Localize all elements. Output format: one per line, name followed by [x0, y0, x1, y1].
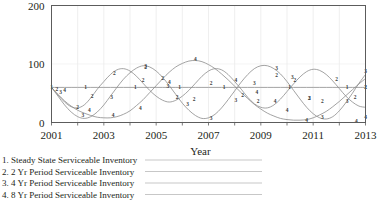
series-point-label-1: 1 — [84, 84, 87, 90]
series-point-label-3: 3 — [253, 80, 256, 86]
series-point-label-2: 2 — [193, 96, 196, 102]
y-axis-tick-label: 0 — [39, 117, 45, 129]
series-point-label-2: 2 — [241, 92, 244, 98]
series-point-label-2: 2 — [113, 70, 116, 76]
y-axis-tick-label: 200 — [28, 0, 45, 12]
chart-figure: 1111111122222222222222222223333333333333… — [0, 0, 378, 213]
series-point-label-3: 3 — [82, 112, 85, 118]
series-point-label-4: 4 — [274, 98, 277, 104]
series-point-label-3: 3 — [210, 115, 213, 121]
series-point-label-3: 3 — [144, 63, 147, 69]
x-axis-tick-label: 2005 — [145, 129, 168, 141]
series-point-label-4: 4 — [256, 89, 259, 95]
x-axis-tick-label: 2009 — [250, 129, 273, 141]
series-point-label-4: 4 — [168, 79, 171, 85]
series-point-label-2: 2 — [210, 80, 213, 86]
series-point-label-3: 3 — [110, 94, 113, 100]
series-point-label-2: 2 — [335, 76, 338, 82]
x-axis-tick-label: 2007 — [198, 129, 221, 141]
series-point-label-2: 2 — [55, 86, 58, 92]
legend-item-3: 3. 4 Yr Period Serviceable Inventory — [2, 178, 135, 188]
series-point-label-1: 1 — [178, 84, 181, 90]
legend-item-1: 1. Steady State Serviceable Inventory — [2, 155, 138, 165]
inventory-line-chart: 1111111122222222222222222223333333333333… — [0, 0, 378, 213]
series-point-label-3: 3 — [346, 98, 349, 104]
series-point-label-2: 2 — [293, 77, 296, 83]
x-axis-title: Year — [190, 145, 211, 157]
x-axis-tick-label: 2003 — [93, 129, 116, 141]
series-point-label-2: 2 — [321, 98, 324, 104]
series-point-label-4: 4 — [63, 87, 66, 93]
series-point-label-3: 3 — [235, 97, 238, 103]
legend-item-2: 2. 2 Yr Period Serviceable Inventory — [2, 167, 135, 177]
series-point-label-3: 3 — [186, 101, 189, 107]
series-point-label-3: 3 — [59, 89, 62, 95]
series-point-label-1: 1 — [288, 84, 291, 90]
series-point-label-1: 1 — [134, 84, 137, 90]
x-axis-tick-label: 2001 — [41, 129, 63, 141]
series-point-label-2: 2 — [354, 94, 357, 100]
series-point-label-2: 2 — [91, 93, 94, 99]
series-point-label-4: 4 — [235, 77, 238, 83]
series-point-label-1: 1 — [346, 84, 349, 90]
series-point-label-1: 1 — [223, 84, 226, 90]
series-point-label-3: 3 — [308, 95, 311, 101]
series-point-label-4: 4 — [194, 56, 197, 62]
series-point-label-4: 4 — [88, 107, 91, 113]
series-point-label-2: 2 — [176, 94, 179, 100]
y-axis-tick-label: 100 — [28, 58, 45, 70]
legend-item-4: 4. 8 Yr Period Serviceable Inventory — [2, 190, 135, 200]
series-point-label-3: 3 — [321, 114, 324, 120]
series-point-label-3: 3 — [275, 65, 278, 71]
series-point-label-4: 4 — [355, 118, 358, 124]
series-point-label-2: 2 — [142, 77, 145, 83]
series-point-label-2: 2 — [257, 98, 260, 104]
x-axis-tick-label: 2013 — [355, 129, 378, 141]
series-point-label-4: 4 — [139, 105, 142, 111]
series-point-label-3: 3 — [291, 74, 294, 80]
x-axis-tick-label: 2011 — [302, 129, 324, 141]
series-point-label-2: 2 — [76, 104, 79, 110]
series-point-label-4: 4 — [112, 112, 115, 118]
series-point-label-4: 4 — [286, 107, 289, 113]
series-point-label-2: 2 — [161, 75, 164, 81]
series-point-label-2: 2 — [275, 72, 278, 78]
